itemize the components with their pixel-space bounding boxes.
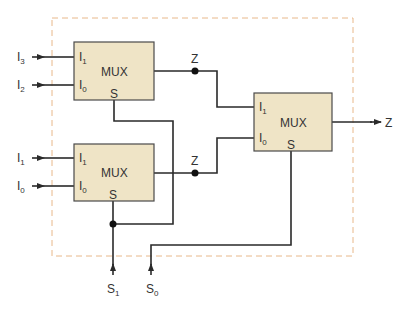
mux-right: I1 I0 MUX S — [254, 93, 332, 152]
svg-text:S: S — [109, 188, 117, 202]
final-output-label: Z — [385, 116, 392, 130]
svg-text:MUX: MUX — [101, 166, 128, 180]
input-label-i1: I1 — [17, 151, 25, 167]
input-label-i3: I3 — [17, 50, 25, 66]
mux-top: I1 I0 MUX S — [74, 42, 154, 101]
junction-dot-bottom-z — [192, 170, 199, 177]
input-label-i2: I2 — [17, 78, 25, 94]
svg-text:S: S — [110, 87, 118, 101]
select-label-s0: S0 — [146, 282, 159, 298]
junction-dot-top-z — [192, 68, 199, 75]
svg-text:MUX: MUX — [280, 116, 307, 130]
mux-bottom: I1 I0 MUX S — [74, 144, 154, 202]
select-label-s1: S1 — [107, 282, 120, 298]
svg-text:MUX: MUX — [101, 65, 128, 79]
input-wires — [32, 57, 74, 186]
mux-diagram: I3 I2 I1 I0 Z Z I1 I0 MUX S I1 I0 MUX — [0, 0, 412, 310]
svg-text:S: S — [287, 138, 295, 152]
top-mux-output-label: Z — [191, 52, 198, 66]
input-label-i0: I0 — [17, 179, 25, 195]
bottom-mux-output-label: Z — [191, 154, 198, 168]
junction-dot-s1 — [110, 221, 117, 228]
